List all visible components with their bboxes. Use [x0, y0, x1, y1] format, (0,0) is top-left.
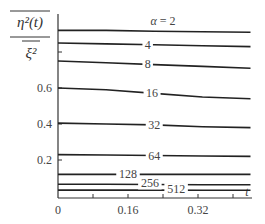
curve-label: 4: [145, 38, 151, 52]
curve-alpha-8: [58, 61, 251, 68]
curve-alpha-2: [58, 30, 251, 32]
curve-label: α = 2: [150, 14, 175, 28]
curves: [58, 30, 251, 190]
curve-label: 256: [141, 176, 159, 190]
curve-label: 512: [167, 182, 185, 196]
curve-labels: α = 248163264128256512: [116, 14, 188, 196]
x-tick-label: 0.16: [118, 203, 139, 217]
curve-alpha-4: [58, 43, 251, 47]
y-tick-label: 0.6: [37, 81, 52, 95]
x-tick-label: 0: [55, 203, 61, 217]
y-label-numerator: η²(t): [17, 14, 43, 31]
curve-label: 8: [145, 57, 151, 71]
y-axis-label: η²(t) ξ²: [10, 11, 50, 61]
x-axis-label: t: [245, 185, 249, 199]
curve-label: 64: [148, 149, 160, 163]
y-tick-label: 0.4: [37, 117, 52, 131]
y-label-denominator: ξ²: [26, 45, 37, 61]
line-chart: η²(t) ξ² 0.20.40.600.160.32t α = 2481632…: [0, 0, 265, 224]
y-tick-label: 0.2: [37, 153, 52, 167]
curve-label: 32: [148, 118, 160, 132]
curve-label: 16: [146, 86, 158, 100]
curve-label: 128: [119, 167, 137, 181]
x-tick-label: 0.32: [188, 203, 209, 217]
